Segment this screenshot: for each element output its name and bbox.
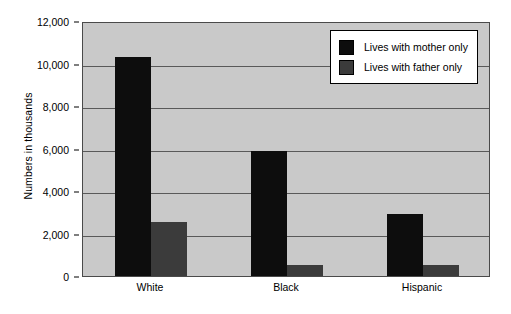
bar-hispanic-father [423,265,459,276]
y-axis-tick-label: 8,000 [0,101,74,113]
bar-hispanic-mother [387,214,423,276]
y-axis-tick-mark [74,64,79,65]
y-axis-tick-mark [74,22,79,23]
y-axis-tick-label: 12,000 [0,16,74,28]
bar-white-mother [115,57,151,276]
legend-item: Lives with mother only [339,37,469,57]
y-axis-tick-label: 2,000 [0,229,74,241]
bar-black-father [287,265,323,276]
x-axis-tick-labels: WhiteBlackHispanic [82,281,490,301]
y-axis-tick-label: 0 [0,271,74,283]
bar-white-father [151,222,187,276]
bar-chart: Numbers in thousands 02,0004,0006,0008,0… [0,0,511,314]
x-axis-tick-label: Hispanic [402,281,442,293]
legend-item-label: Lives with father only [364,61,462,73]
y-axis-tick-mark [74,192,79,193]
y-axis-tick-label: 4,000 [0,186,74,198]
y-axis-tick-mark [74,277,79,278]
x-axis-tick-label: White [137,281,164,293]
legend-item-label: Lives with mother only [364,41,468,53]
x-axis-tick-label: Black [273,281,299,293]
y-axis-tick-label: 6,000 [0,144,74,156]
y-axis-tick-labels: 02,0004,0006,0008,00010,00012,000 [0,22,74,277]
y-axis-tick-mark [74,149,79,150]
y-axis-tick-mark [74,107,79,108]
legend-swatch-father [339,60,354,75]
legend-swatch-mother [339,40,354,55]
y-axis-tick-mark [74,234,79,235]
legend-item: Lives with father only [339,57,469,77]
y-axis-tick-label: 10,000 [0,59,74,71]
bar-black-mother [251,151,287,276]
chart-legend: Lives with mother onlyLives with father … [330,30,478,84]
